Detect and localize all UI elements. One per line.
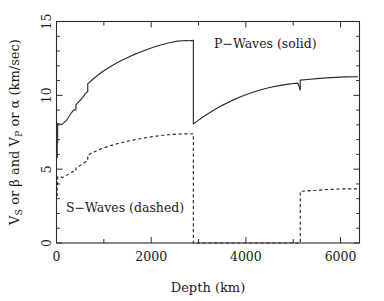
x-tick-label-6000: 6000 — [325, 249, 357, 264]
x-tick-label-0: 0 — [53, 249, 61, 264]
x-tick-label-4000: 4000 — [230, 249, 262, 264]
y-tick-label-15: 15 — [39, 14, 54, 30]
y-tick-label-5: 5 — [39, 165, 54, 173]
s-waves-legend-label: S−Waves (dashed) — [66, 200, 184, 215]
y-tick-label-0: 0 — [39, 239, 54, 247]
p-waves-legend-label: P−Waves (solid) — [214, 36, 317, 51]
x-tick-label-2000: 2000 — [135, 249, 167, 264]
x-axis-title: Depth (km) — [171, 280, 246, 295]
y-axis-title-mid1: or β and V — [7, 136, 22, 209]
chart-svg: 0200040006000 051015 P−Waves (solid) S−W… — [0, 0, 384, 301]
y-axis-title-mid2: or α (km/sec) — [7, 39, 22, 131]
seismic-velocity-chart: 0200040006000 051015 P−Waves (solid) S−W… — [0, 0, 384, 301]
y-tick-label-10: 10 — [39, 87, 54, 103]
y-axis-title-v1: V — [7, 215, 22, 226]
